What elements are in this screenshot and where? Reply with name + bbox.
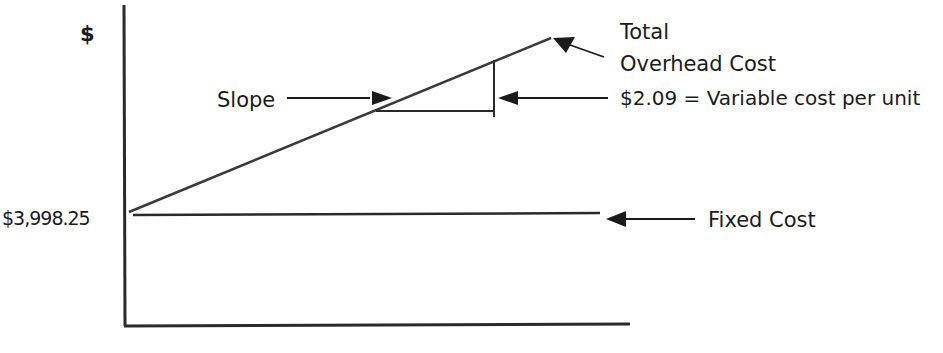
variable-arrow (498, 91, 608, 105)
fixed-cost-label: Fixed Cost (708, 208, 816, 232)
variable-cost-label: $2.09 = Variable cost per unit (620, 86, 920, 110)
total-label-line2: Overhead Cost (620, 52, 776, 76)
cost-graph (0, 0, 943, 353)
fixed-cost-line (133, 213, 600, 215)
x-axis (124, 324, 630, 326)
y-axis (124, 5, 125, 326)
slope-arrow (287, 91, 392, 105)
fixed-arrow (606, 211, 695, 227)
total-overhead-line (129, 38, 551, 212)
y-axis-label: $ (80, 22, 95, 46)
total-arrow (553, 37, 604, 57)
total-label-line1: Total (620, 20, 669, 44)
fixed-cost-value-label: $3,998.25 (2, 206, 90, 230)
slope-label: Slope (217, 88, 275, 112)
